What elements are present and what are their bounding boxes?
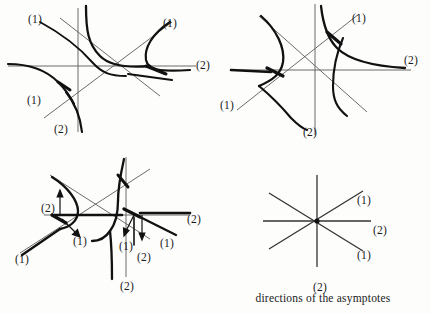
thin-asymptote-lines-tr bbox=[231, 4, 411, 135]
thin-asymptote-lines-bl bbox=[20, 157, 190, 277]
label-tr-1-upper-right: (1) bbox=[352, 13, 366, 25]
label-tr-2-right: (2) bbox=[404, 55, 418, 67]
label-br-1-upper-right: (1) bbox=[357, 195, 371, 207]
label-bl-1-lower-left: (1) bbox=[15, 254, 29, 266]
label-tl-2-bottom: (2) bbox=[54, 124, 68, 136]
label-bl-2-down-arrow: (2) bbox=[137, 252, 151, 264]
label-bl-2-bottom: (2) bbox=[120, 281, 134, 293]
label-tl-2-right: (2) bbox=[196, 60, 210, 72]
hyperbola-branches-bl bbox=[22, 159, 190, 279]
label-bl-1-right-node: (1) bbox=[119, 241, 133, 253]
star-center-dot bbox=[314, 218, 319, 223]
panel-bottom-left bbox=[0, 157, 215, 314]
label-bl-2-right: (2) bbox=[187, 214, 201, 226]
label-tr-2-bottom: (2) bbox=[303, 127, 317, 139]
label-br-2-right: (2) bbox=[373, 225, 387, 237]
label-tl-1-upper-right: (1) bbox=[163, 18, 177, 30]
label-bl-1-right-ray: (1) bbox=[160, 238, 174, 250]
label-tl-1-upper-left: (1) bbox=[28, 14, 42, 26]
asymptote-figure: (1) (1) (2) (1) (2) (1) (2) (1) (2) (2) … bbox=[0, 0, 431, 314]
label-tl-1-lower-left: (1) bbox=[27, 95, 41, 107]
figure-caption: directions of the asymptotes bbox=[215, 292, 431, 304]
label-tr-1-lower-left: (1) bbox=[220, 100, 234, 112]
label-bl-1-left-node: (1) bbox=[73, 236, 87, 248]
label-br-1-lower-right: (1) bbox=[357, 250, 371, 262]
label-bl-2-up-arrow: (2) bbox=[41, 203, 55, 215]
panel-top-right bbox=[215, 0, 431, 157]
